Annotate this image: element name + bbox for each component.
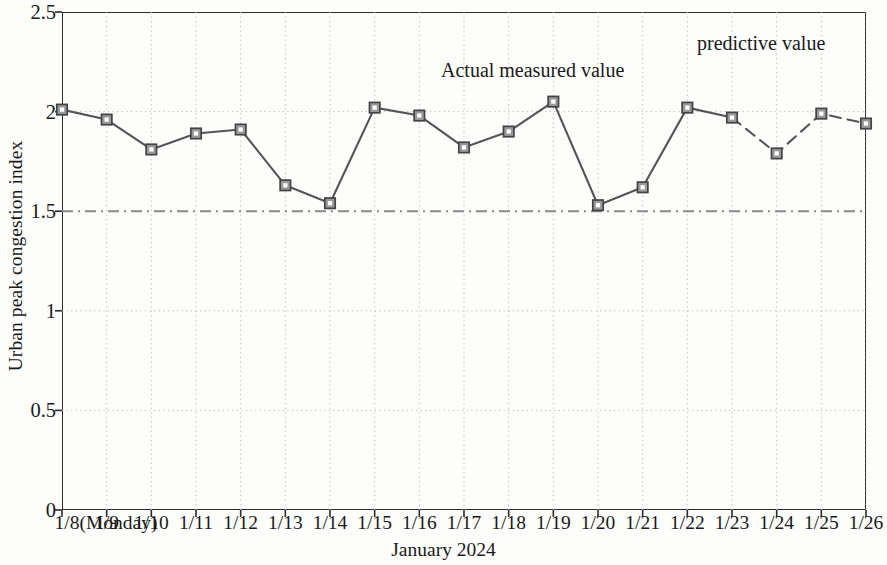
x-tick-label: 1/24	[759, 513, 794, 533]
x-tick-label: 1/9	[94, 513, 119, 533]
x-tick-label: 1/14	[313, 513, 348, 533]
x-axis-tick-labels: 1/8(Monday)1/91/101/111/121/131/141/151/…	[0, 0, 887, 565]
x-tick-label: 1/23	[715, 513, 750, 533]
x-tick-label: 1/18	[491, 513, 526, 533]
chart-figure: 00.511.522.5 Urban peak congestion index…	[0, 0, 887, 565]
x-axis-title: January 2024	[0, 539, 887, 561]
x-tick-label: 1/10	[134, 513, 169, 533]
x-tick-label: 1/21	[625, 513, 660, 533]
x-tick-label: 1/13	[268, 513, 303, 533]
x-tick-label: 1/22	[670, 513, 705, 533]
x-tick-label: 1/11	[179, 513, 213, 533]
annotation-predictive-value: predictive value	[697, 33, 825, 53]
x-tick-label: 1/25	[804, 513, 839, 533]
x-tick-label: 1/20	[581, 513, 616, 533]
x-tick-label: 1/15	[357, 513, 392, 533]
x-tick-label: 1/16	[402, 513, 437, 533]
annotation-actual-measured-value: Actual measured value	[441, 60, 624, 80]
x-tick-label: 1/12	[223, 513, 258, 533]
x-tick-label: 1/19	[536, 513, 571, 533]
x-tick-label: 1/17	[447, 513, 482, 533]
x-tick-label: 1/26	[849, 513, 884, 533]
